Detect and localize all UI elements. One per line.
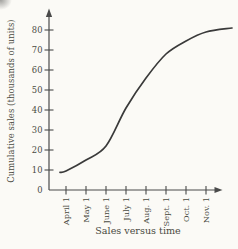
y-tick-label: 0: [37, 185, 42, 195]
x-tick-label: Aug. 1: [141, 197, 151, 225]
y-tick-label: 40: [32, 105, 43, 115]
x-tick-label: Nov. 1: [201, 197, 211, 223]
sales-versus-time-figure: Cumulative sales (thousands of units) 01…: [0, 0, 238, 249]
x-tick-label: June 1: [101, 197, 111, 225]
y-axis-arrow-icon: [46, 9, 52, 18]
y-tick-label: 50: [32, 85, 43, 95]
y-tick-label: 20: [32, 145, 43, 155]
x-tick-label: May 1: [81, 197, 91, 223]
chart-canvas: Cumulative sales (thousands of units) 01…: [0, 0, 238, 249]
y-tick-label: 70: [32, 45, 43, 55]
curve-layer: [60, 28, 232, 172]
y-tick-label: 10: [32, 165, 43, 175]
x-axis-arrow-icon: [215, 187, 223, 193]
ticks-layer: 01020304050607080April 1May 1June 1July …: [32, 25, 211, 227]
y-tick-label: 60: [32, 65, 43, 75]
x-tick-label: Sept. 1: [161, 197, 171, 226]
x-tick-label: July 1: [121, 197, 131, 222]
y-tick-label: 30: [32, 125, 43, 135]
x-tick-label: Oct. 1: [181, 197, 191, 222]
y-tick-label: 80: [32, 25, 43, 35]
y-axis-label: Cumulative sales (thousands of units): [6, 19, 16, 182]
sales-curve: [60, 28, 232, 172]
figure-caption: Sales versus time: [49, 225, 227, 236]
x-tick-label: April 1: [61, 197, 71, 226]
